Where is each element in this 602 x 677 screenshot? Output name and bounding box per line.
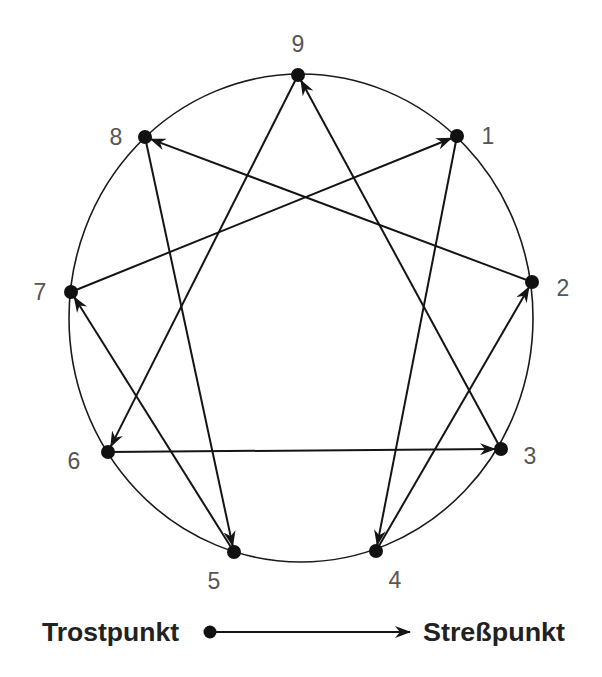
- legend: Trostpunkt Streßpunkt: [42, 618, 566, 646]
- legend-to-label: Streßpunkt: [423, 618, 566, 646]
- node-label-5: 5: [208, 568, 221, 594]
- node-label-3: 3: [524, 443, 537, 469]
- edge-arrow-7-to-1: [71, 138, 451, 292]
- node-point-7: [64, 285, 78, 299]
- edge-arrow-4-to-2: [376, 287, 529, 551]
- edge-arrow-6-to-3: [108, 449, 495, 452]
- edge-arrow-5-to-7: [74, 297, 234, 552]
- edge-arrow-1-to-4: [377, 136, 457, 545]
- node-point-8: [138, 130, 152, 144]
- edge-arrow-2-to-8: [151, 139, 532, 282]
- node-label-2: 2: [557, 275, 570, 301]
- legend-from-label: Trostpunkt: [42, 618, 180, 646]
- node-label-4: 4: [389, 567, 402, 593]
- node-label-8: 8: [110, 124, 123, 150]
- node-label-9: 9: [292, 31, 305, 57]
- node-point-3: [494, 442, 508, 456]
- edge-arrow-9-to-6: [111, 75, 298, 447]
- node-point-5: [227, 545, 241, 559]
- edges-layer: [71, 75, 532, 552]
- enneagram-diagram: 912345678 Trostpunkt Streßpunkt: [0, 0, 602, 677]
- edge-arrow-8-to-5: [145, 137, 233, 546]
- node-point-9: [291, 68, 305, 82]
- outer-circle: [69, 74, 533, 562]
- node-point-1: [450, 129, 464, 143]
- node-point-6: [101, 445, 115, 459]
- node-label-1: 1: [482, 123, 495, 149]
- node-point-4: [369, 544, 383, 558]
- node-label-7: 7: [34, 279, 47, 305]
- edge-arrow-3-to-9: [301, 80, 501, 449]
- node-labels-layer: 912345678: [34, 31, 570, 594]
- nodes-layer: [64, 68, 539, 559]
- node-point-2: [525, 275, 539, 289]
- node-label-6: 6: [68, 448, 81, 474]
